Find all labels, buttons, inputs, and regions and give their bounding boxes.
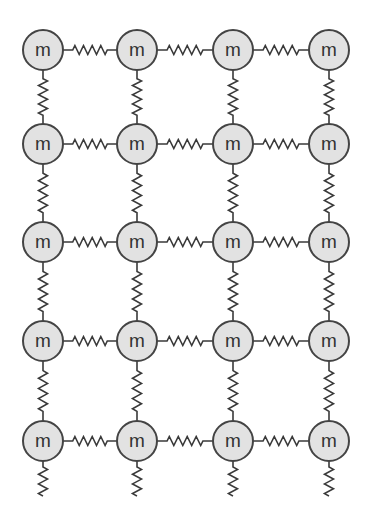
mass-label: m [225,330,241,351]
mass-node: m [23,30,63,70]
mass-label: m [35,430,51,451]
mass-label: m [321,39,337,60]
mass-label: m [321,133,337,154]
masses-layer: mmmmmmmmmmmmmmmmmmmm [23,30,349,461]
mass-label: m [321,330,337,351]
spring-horizontal-r1-c1 [63,46,117,55]
spring-dangling-c4 [325,461,334,496]
mass-node: m [309,30,349,70]
spring-vertical-c4-r2 [325,164,334,222]
spring-horizontal-r3-c2 [157,238,213,247]
mass-node: m [213,421,253,461]
spring-vertical-c2-r2 [133,164,142,222]
spring-vertical-c1-r2 [39,164,48,222]
spring-vertical-c2-r1 [133,70,142,124]
mass-label: m [35,231,51,252]
spring-dangling-c2 [133,461,142,496]
spring-vertical-c1-r1 [39,70,48,124]
mass-label: m [129,39,145,60]
mass-node: m [309,124,349,164]
mass-label: m [129,330,145,351]
mass-node: m [117,321,157,361]
mass-node: m [309,222,349,262]
mass-label: m [321,231,337,252]
mass-node: m [213,30,253,70]
spring-vertical-c1-r3 [39,262,48,321]
spring-horizontal-r2-c3 [253,140,309,149]
mass-label: m [225,430,241,451]
mass-label: m [35,330,51,351]
mass-node: m [213,124,253,164]
mass-node: m [117,124,157,164]
mass-node: m [117,30,157,70]
mass-node: m [309,421,349,461]
spring-vertical-c2-r4 [133,361,142,421]
spring-dangling-c1 [39,461,48,496]
spring-vertical-c4-r1 [325,70,334,124]
spring-dangling-c3 [229,461,238,496]
spring-vertical-c3-r2 [229,164,238,222]
mass-node: m [213,321,253,361]
spring-horizontal-r5-c1 [63,437,117,446]
mass-node: m [23,124,63,164]
spring-vertical-c1-r4 [39,361,48,421]
mass-label: m [321,430,337,451]
mass-label: m [129,231,145,252]
mass-label: m [129,430,145,451]
mass-node: m [213,222,253,262]
mass-node: m [117,222,157,262]
mass-label: m [225,39,241,60]
spring-vertical-c2-r3 [133,262,142,321]
spring-vertical-c4-r3 [325,262,334,321]
spring-horizontal-r4-c2 [157,337,213,346]
mass-node: m [309,321,349,361]
spring-horizontal-r2-c1 [63,140,117,149]
spring-vertical-c3-r3 [229,262,238,321]
spring-vertical-c3-r1 [229,70,238,124]
spring-horizontal-r5-c3 [253,437,309,446]
spring-horizontal-r1-c3 [253,46,309,55]
spring-horizontal-r4-c1 [63,337,117,346]
mass-node: m [117,421,157,461]
mass-label: m [225,133,241,154]
mass-node: m [23,421,63,461]
spring-horizontal-r2-c2 [157,140,213,149]
spring-horizontal-r4-c3 [253,337,309,346]
mass-label: m [225,231,241,252]
mass-label: m [35,39,51,60]
mass-node: m [23,321,63,361]
spring-vertical-c4-r4 [325,361,334,421]
mass-label: m [129,133,145,154]
spring-horizontal-r5-c2 [157,437,213,446]
spring-horizontal-r3-c3 [253,238,309,247]
spring-horizontal-r3-c1 [63,238,117,247]
springs-layer [39,46,334,497]
mass-spring-lattice-diagram: mmmmmmmmmmmmmmmmmmmm [0,0,368,517]
mass-node: m [23,222,63,262]
mass-label: m [35,133,51,154]
spring-vertical-c3-r4 [229,361,238,421]
spring-horizontal-r1-c2 [157,46,213,55]
